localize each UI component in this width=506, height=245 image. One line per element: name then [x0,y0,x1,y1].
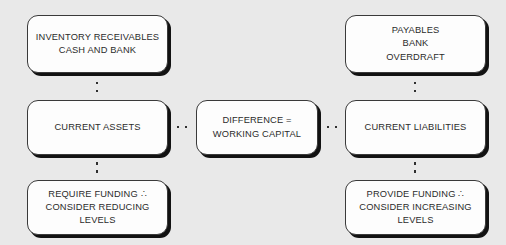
node-require-funding[interactable]: REQUIRE FUNDING ∴ CONSIDER REDUCING LEVE… [27,180,168,235]
connector-dot [414,90,417,93]
connector-inventory-to-current-assets [92,76,102,98]
connector-current-assets-to-difference [170,122,194,132]
node-current-liabilities[interactable]: CURRENT LIABILITIES [345,100,486,155]
node-inventory-receivables-label: INVENTORY RECEIVABLES CASH AND BANK [30,31,165,57]
connector-current-liabilities-to-provide-funding [410,157,420,178]
connector-dot [96,90,99,93]
connector-dot [185,126,188,129]
node-payables-label: PAYABLES BANK OVERDRAFT [380,24,451,64]
connector-dot [96,82,99,85]
working-capital-diagram: INVENTORY RECEIVABLES CASH AND BANK CURR… [0,0,506,245]
node-inventory-receivables[interactable]: INVENTORY RECEIVABLES CASH AND BANK [27,15,168,73]
connector-dot [335,126,338,129]
node-current-liabilities-label: CURRENT LIABILITIES [359,121,473,134]
node-payables[interactable]: PAYABLES BANK OVERDRAFT [345,15,486,73]
connector-dot [327,126,330,129]
connector-dot [414,170,417,173]
connector-dot [177,126,180,129]
connector-payables-to-current-liabilities [410,76,420,98]
connector-dot [96,162,99,165]
node-current-assets-label: CURRENT ASSETS [48,121,146,134]
node-provide-funding-label: PROVIDE FUNDING ∴ CONSIDER INCREASING LE… [353,188,477,228]
connector-dot [414,82,417,85]
node-difference-working-capital[interactable]: DIFFERENCE = WORKING CAPITAL [196,100,318,155]
connector-difference-to-current-liabilities [320,122,344,132]
node-current-assets[interactable]: CURRENT ASSETS [27,100,168,155]
node-difference-working-capital-label: DIFFERENCE = WORKING CAPITAL [207,114,307,140]
node-require-funding-label: REQUIRE FUNDING ∴ CONSIDER REDUCING LEVE… [40,188,156,228]
connector-dot [414,162,417,165]
connector-current-assets-to-require-funding [92,157,102,178]
node-provide-funding[interactable]: PROVIDE FUNDING ∴ CONSIDER INCREASING LE… [345,180,486,235]
connector-dot [96,170,99,173]
